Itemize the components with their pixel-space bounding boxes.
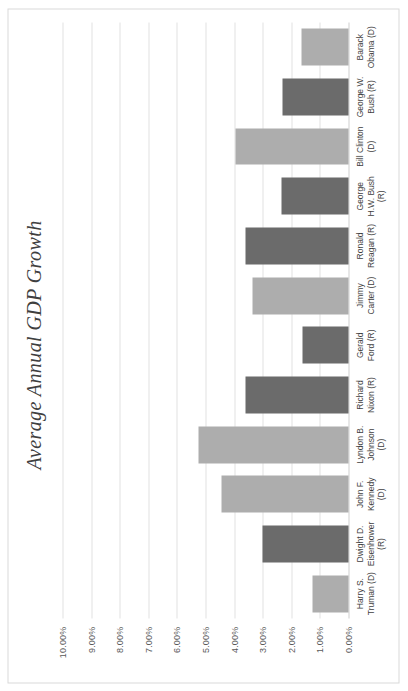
value-axis-tick: 3.00% <box>257 626 267 653</box>
value-axis-tick: 8.00% <box>114 626 124 653</box>
bar-george-w-bush-r <box>282 78 348 115</box>
bar-slot <box>62 121 348 171</box>
bar-richard-nixon-r <box>245 376 348 413</box>
bar-slot <box>62 320 348 370</box>
bar-slot <box>62 221 348 271</box>
bar-bill-clinton-d <box>235 128 348 165</box>
bar-slot <box>62 171 348 221</box>
bar-ronald-reagan-r <box>245 227 348 264</box>
category-label: George W. Bush (R) <box>350 72 396 122</box>
bar-series <box>62 22 348 618</box>
plot-area <box>62 22 348 618</box>
bar-slot <box>62 22 348 72</box>
value-axis: 10.00%9.00%8.00%7.00%6.00%5.00%4.00%3.00… <box>62 620 348 682</box>
value-axis-tick: 4.00% <box>229 626 239 653</box>
bar-slot <box>62 519 348 569</box>
bar-lyndon-b-johnson-d <box>198 426 348 463</box>
category-label: Jimmy Carter (D) <box>350 270 396 320</box>
category-label: Richard Nixon (R) <box>350 370 396 420</box>
category-axis: Harry S. Truman (D)Dwight D. Eisenhower … <box>350 22 396 618</box>
category-label: Bill Clinton (D) <box>350 121 396 171</box>
bar-dwight-d-eisenhower-r <box>262 525 348 562</box>
value-axis-tick: 5.00% <box>200 626 210 653</box>
category-label: Gerald Ford (R) <box>350 320 396 370</box>
value-axis-tick: 0.00% <box>343 626 353 653</box>
bar-slot <box>62 370 348 420</box>
axis-caption <box>394 7 401 682</box>
bar-john-f-kennedy-d <box>221 475 348 512</box>
bar-george-h-w-bush-r <box>281 177 348 214</box>
chart-title: Average Annual GDP Growth <box>22 7 45 682</box>
chart-frame: Average Annual GDP Growth 10.00%9.00%8.0… <box>7 8 399 683</box>
category-label: Dwight D. Eisenhower (R) <box>350 519 396 569</box>
category-label: Barack Obama (D) <box>350 22 396 72</box>
bar-slot <box>62 419 348 469</box>
bar-slot <box>62 72 348 122</box>
rotated-chart-wrapper: Average Annual GDP Growth 10.00%9.00%8.0… <box>0 0 408 691</box>
bar-slot <box>62 568 348 618</box>
value-axis-tick: 10.00% <box>57 626 67 658</box>
bar-harry-s-truman-d <box>312 575 348 612</box>
value-axis-tick: 9.00% <box>86 626 96 653</box>
bar-barack-obama-d <box>301 28 348 65</box>
bar-slot <box>62 270 348 320</box>
value-axis-tick: 1.00% <box>314 626 324 653</box>
value-axis-tick: 7.00% <box>143 626 153 653</box>
value-axis-tick: 6.00% <box>171 626 181 653</box>
bar-gerald-ford-r <box>302 326 348 363</box>
category-label: John F. Kennedy (D) <box>350 469 396 519</box>
bar-slot <box>62 469 348 519</box>
value-axis-tick: 2.00% <box>286 626 296 653</box>
bar-jimmy-carter-d <box>252 277 348 314</box>
category-label: George H.W. Bush (R) <box>350 171 396 221</box>
category-label: Harry S. Truman (D) <box>350 568 396 618</box>
category-label: Ronald Reagan (R) <box>350 221 396 271</box>
category-label: Lyndon B. Johnson (D) <box>350 419 396 469</box>
scanned-page: Average Annual GDP Growth 10.00%9.00%8.0… <box>0 0 408 691</box>
